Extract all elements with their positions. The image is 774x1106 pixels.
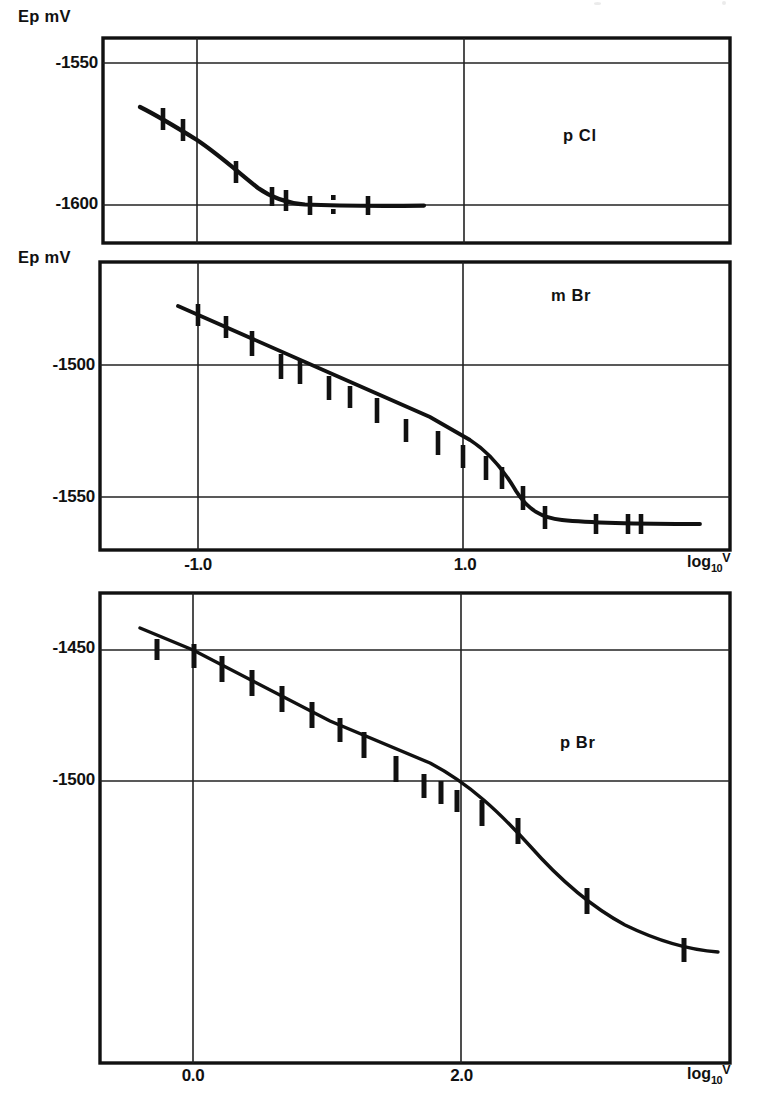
panel-mbr-plot	[0, 248, 774, 600]
panel-pbr: -1450 -1500 p Br	[0, 588, 774, 1106]
log-subscript-text: 10	[711, 1074, 722, 1086]
panel-mbr-xtick-0: -1.0	[168, 555, 228, 575]
figure-root: Ep mV -1550 -1600 p Cl	[0, 0, 774, 1106]
panel-mbr: Ep mV -1500 -1550 m Br	[0, 248, 774, 600]
panel-pbr-xtick-0: 0.0	[164, 1066, 222, 1086]
panel-pcl-plot	[0, 0, 774, 250]
panel-mbr-x-axis-label: log10V	[687, 551, 731, 574]
panel-mbr-xtick-1: 1.0	[440, 555, 490, 575]
panel-pcl: Ep mV -1550 -1600 p Cl	[0, 0, 774, 250]
panel-pbr-plot	[0, 588, 774, 1106]
panel-pcl-ytick-0: -1550	[13, 53, 98, 73]
log-subscript-text: 10	[711, 562, 722, 574]
log-superscript-text: V	[722, 1063, 730, 1077]
panel-pbr-xtick-1: 2.0	[434, 1066, 489, 1086]
log-base-text: log	[687, 1065, 711, 1082]
log-superscript-text: V	[722, 551, 730, 565]
panel-pcl-y-axis-label: Ep mV	[18, 7, 71, 26]
panel-pcl-series-label: p Cl	[563, 126, 597, 145]
panel-pcl-ytick-1: -1600	[13, 194, 98, 214]
panel-pbr-x-axis-label: log10V	[687, 1063, 731, 1086]
log-base-text: log	[687, 553, 711, 570]
